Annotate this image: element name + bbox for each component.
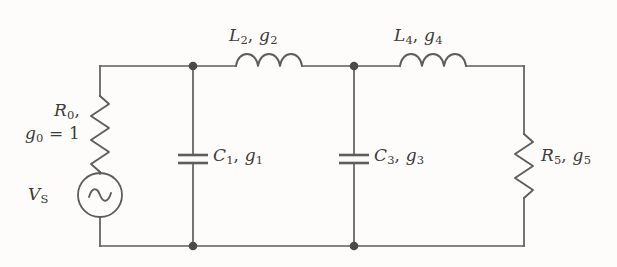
r0-symbol: R [54, 100, 67, 120]
g4-subscript: 4 [435, 33, 442, 47]
label-resistor-r5: R5, g5 [541, 145, 591, 168]
g2-symbol: g [259, 25, 270, 45]
g0-value: = 1 [43, 123, 80, 143]
g1-subscript: 1 [256, 153, 263, 167]
c1-symbol: C [213, 145, 226, 165]
label-inductor-l2: L2, g2 [229, 25, 277, 48]
g0-symbol: g [25, 123, 36, 143]
circuit-schematic-svg [0, 0, 617, 267]
g3-subscript: 3 [417, 153, 424, 167]
node-dot-bottom-right [350, 242, 359, 251]
inductor-l2-coils [236, 54, 302, 66]
c3-subscript: 3 [387, 153, 394, 167]
node-dot-bottom-left [189, 242, 198, 251]
c1-separator: , [234, 145, 245, 165]
l2-symbol: L [229, 25, 241, 45]
l4-subscript: 4 [406, 33, 413, 47]
label-capacitor-c1: C1, g1 [213, 145, 263, 168]
r5-separator: , [561, 145, 572, 165]
label-source-resistor: R0, g0 = 1 [2, 100, 80, 146]
resistor-r5-zigzag [515, 134, 533, 198]
resistor-r0-zigzag [91, 96, 109, 172]
vs-subscript: S [40, 192, 48, 206]
r5-symbol: R [541, 145, 554, 165]
l4-symbol: L [394, 25, 406, 45]
g2-subscript: 2 [270, 33, 277, 47]
c3-separator: , [395, 145, 406, 165]
vs-symbol: V [28, 184, 40, 204]
inductor-l4-coils [400, 54, 466, 66]
label-source-resistor-line1: R0, [2, 100, 80, 123]
label-capacitor-c3: C3, g3 [374, 145, 424, 168]
c3-symbol: C [374, 145, 387, 165]
g4-symbol: g [424, 25, 435, 45]
r0-comma: , [74, 100, 80, 120]
g5-symbol: g [573, 145, 584, 165]
g1-symbol: g [245, 145, 256, 165]
circuit-diagram: R0, g0 = 1 VS L2, g2 L4, g4 C1, g1 C3, g… [0, 0, 617, 267]
l4-separator: , [413, 25, 424, 45]
node-dot-top-right [350, 62, 359, 71]
label-inductor-l4: L4, g4 [394, 25, 442, 48]
label-source-voltage: VS [28, 184, 48, 207]
c1-subscript: 1 [226, 153, 233, 167]
l2-separator: , [248, 25, 259, 45]
l2-subscript: 2 [241, 33, 248, 47]
g5-subscript: 5 [584, 153, 591, 167]
ac-sine-wave-icon [89, 189, 111, 201]
label-source-resistor-line2: g0 = 1 [2, 123, 80, 146]
node-dot-top-left [189, 62, 198, 71]
g3-symbol: g [406, 145, 417, 165]
